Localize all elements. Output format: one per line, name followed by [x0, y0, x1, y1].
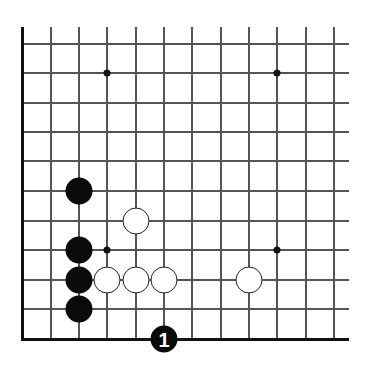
grid-line-vertical — [305, 27, 307, 339]
go-board: 1 — [0, 0, 370, 367]
black-stone — [66, 267, 93, 294]
grid-line-horizontal — [22, 160, 349, 162]
grid-line-horizontal — [22, 220, 349, 222]
grid-line-vertical — [220, 27, 222, 339]
star-point — [274, 247, 281, 254]
board-edge-bottom — [21, 338, 350, 341]
grid-line-horizontal — [22, 72, 349, 74]
white-stone — [94, 267, 121, 294]
grid-line-vertical — [50, 27, 52, 339]
black-stone: 1 — [151, 326, 178, 353]
star-point — [104, 247, 111, 254]
black-stone — [66, 178, 93, 205]
white-stone — [123, 267, 150, 294]
grid-line-horizontal — [22, 131, 349, 133]
board-edge-left — [21, 27, 24, 341]
white-stone — [236, 267, 263, 294]
black-stone — [66, 237, 93, 264]
grid-line-vertical — [191, 27, 193, 339]
move-number: 1 — [158, 329, 169, 349]
white-stone — [151, 267, 178, 294]
star-point — [274, 70, 281, 77]
white-stone — [123, 208, 150, 235]
star-point — [104, 70, 111, 77]
grid-line-horizontal — [22, 102, 349, 104]
black-stone — [66, 296, 93, 323]
grid-line-vertical — [333, 27, 335, 339]
grid-line-horizontal — [22, 43, 349, 45]
